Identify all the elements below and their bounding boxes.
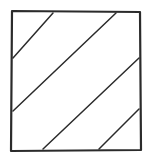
figure-container: Square with parallel diagonal hatch line… (0, 0, 150, 161)
figure-background (0, 0, 150, 161)
square-hatch-figure: Square with parallel diagonal hatch line… (0, 0, 150, 161)
